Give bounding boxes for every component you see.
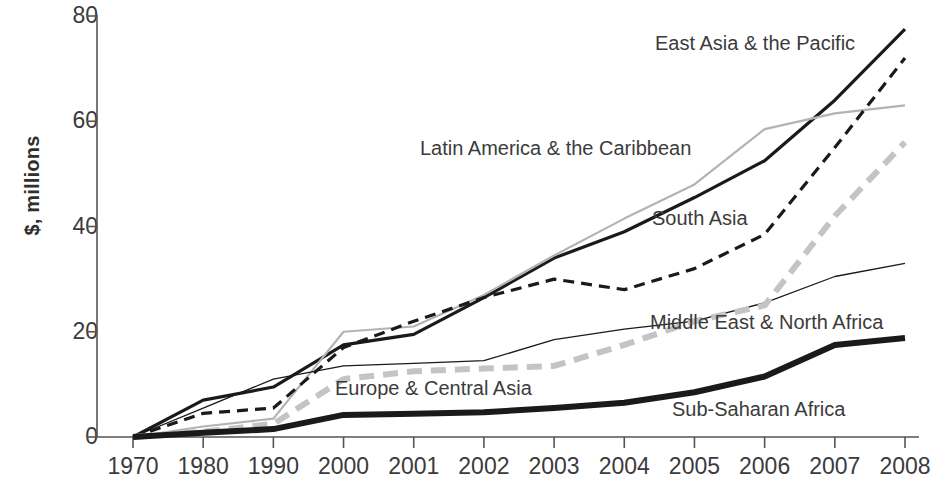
series-line [133,29,905,437]
x-tick-label: 2008 [863,455,935,478]
series-label: Sub-Saharan Africa [672,399,845,419]
series-label: Middle East & North Africa [650,312,883,332]
series-label: South Asia [652,208,748,228]
series-label: Latin America & the Caribbean [420,138,691,158]
data-series-group [133,29,905,437]
series-label: Europe & Central Asia [335,378,532,398]
series-label: East Asia & the Pacific [655,33,855,53]
